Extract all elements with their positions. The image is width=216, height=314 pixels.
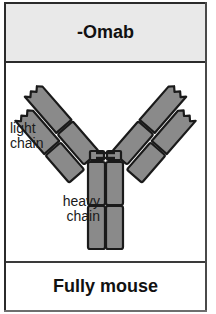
card-body: light chain heavy chain xyxy=(6,63,205,261)
frame-border-right xyxy=(205,2,207,312)
domain-ch3-right xyxy=(106,206,123,249)
card-header: -Omab xyxy=(6,4,205,61)
antibody-diagram xyxy=(6,63,205,261)
label-light-chain: light chain xyxy=(10,121,43,151)
page-title: -Omab xyxy=(77,22,134,43)
frame-border-bottom xyxy=(4,310,207,312)
label-heavy-chain: heavy chain xyxy=(36,194,100,224)
card-footer: Fully mouse xyxy=(6,263,205,310)
origin-label: Fully mouse xyxy=(53,276,158,297)
domain-ch2-right xyxy=(106,162,123,205)
antibody-nomenclature-card: -Omab xyxy=(0,0,216,314)
